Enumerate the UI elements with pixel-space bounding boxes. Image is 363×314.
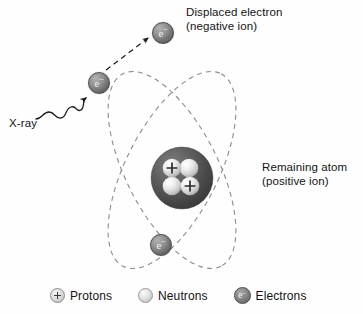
legend-item-protons: Protons [50, 288, 112, 303]
electron-icon-charge: – [242, 289, 246, 297]
neutron-icon [138, 288, 153, 303]
orbital-electron: e– [88, 72, 110, 94]
displaced-electron-label-line2: (negative ion) [186, 20, 282, 34]
neutron-2 [163, 177, 182, 196]
electron-icon: e– [234, 287, 251, 304]
neutron-1 [180, 159, 199, 178]
legend: Protons Neutrons e– Electrons [50, 287, 306, 304]
displaced-electron-label: Displaced electron(negative ion) [186, 6, 282, 33]
diagram-canvas [0, 0, 363, 314]
xray-wave-arrow [36, 98, 86, 119]
legend-item-electrons: e– Electrons [234, 287, 307, 304]
remaining-atom-label-line2: (positive ion) [262, 175, 347, 189]
legend-label-electrons: Electrons [256, 289, 307, 303]
lower-orbital-electron: e– [150, 234, 172, 256]
xray-label: X-ray [9, 117, 37, 131]
electron-charge: – [163, 24, 167, 33]
atom-ionization-diagram: e– e– e– Displaced electron(negative ion… [0, 0, 363, 314]
displaced-electron: e– [152, 22, 174, 44]
remaining-atom-label: Remaining atom(positive ion) [262, 161, 347, 188]
proton-2 [181, 177, 200, 196]
ejection-arrow [106, 38, 148, 70]
nucleus [151, 147, 213, 209]
proton-icon [50, 288, 65, 303]
remaining-atom-label-line1: Remaining atom [262, 161, 347, 175]
legend-label-protons: Protons [70, 289, 112, 303]
electron-charge: – [161, 236, 165, 245]
legend-item-neutrons: Neutrons [138, 288, 208, 303]
displaced-electron-label-line1: Displaced electron [186, 6, 282, 20]
electron-charge: – [99, 74, 103, 83]
legend-label-neutrons: Neutrons [158, 289, 208, 303]
proton-1 [163, 159, 182, 178]
